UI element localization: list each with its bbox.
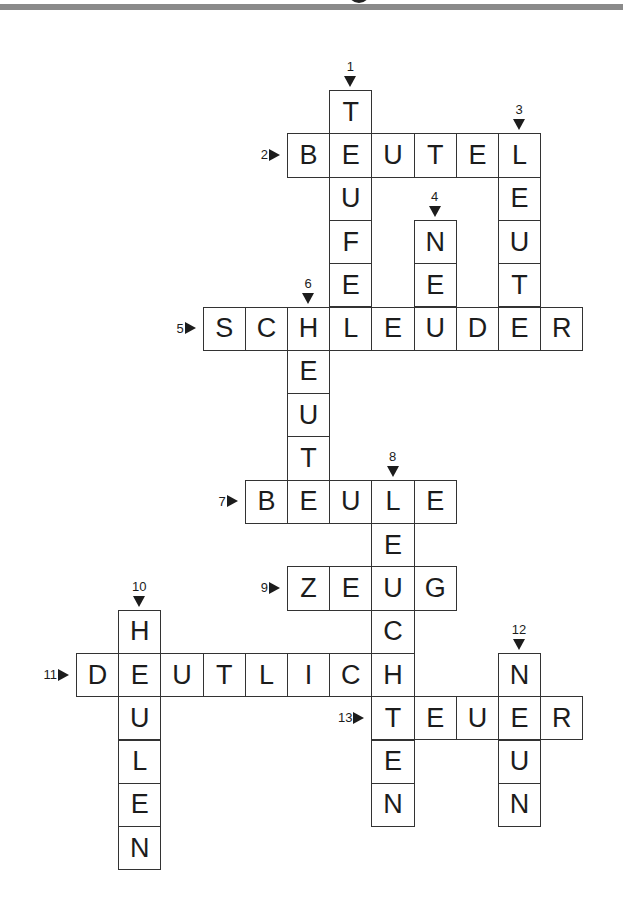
grid-cell[interactable]: U: [498, 740, 541, 784]
grid-cell[interactable]: U: [160, 653, 203, 697]
crossword-grid: TEUFEL1BUTEL2EUTE3NEU4SCHEDR5EUT6BEULE7E…: [0, 0, 623, 914]
grid-cell[interactable]: E: [329, 263, 372, 307]
arrow-down-icon: [133, 596, 145, 607]
clue-marker-down-6: 6: [293, 277, 323, 304]
grid-cell[interactable]: U: [329, 177, 372, 221]
grid-cell[interactable]: I: [287, 653, 330, 697]
grid-cell[interactable]: R: [540, 307, 583, 351]
grid-cell[interactable]: U: [456, 696, 499, 740]
grid-cell[interactable]: E: [498, 177, 541, 221]
clue-number: 1: [347, 60, 354, 73]
grid-cell[interactable]: N: [118, 826, 161, 870]
grid-cell[interactable]: L: [245, 653, 288, 697]
clue-number: 7: [219, 495, 226, 508]
arrow-right-icon: [227, 495, 238, 507]
grid-cell[interactable]: E: [414, 696, 457, 740]
clue-number: 13: [338, 711, 352, 724]
clue-number: 3: [515, 103, 522, 116]
grid-cell[interactable]: D: [76, 653, 119, 697]
grid-cell[interactable]: U: [414, 307, 457, 351]
grid-cell[interactable]: N: [414, 220, 457, 264]
clue-number: 6: [304, 277, 311, 290]
grid-cell[interactable]: E: [118, 783, 161, 827]
grid-cell[interactable]: E: [371, 740, 414, 784]
arrow-down-icon: [513, 119, 525, 130]
clue-marker-across-11: 11: [44, 665, 70, 685]
grid-cell[interactable]: U: [287, 393, 330, 437]
grid-cell[interactable]: D: [456, 307, 499, 351]
grid-cell[interactable]: H: [371, 653, 414, 697]
arrow-down-icon: [429, 206, 441, 217]
grid-cell[interactable]: E: [498, 696, 541, 740]
clue-number: 9: [261, 581, 268, 594]
arrow-right-icon: [185, 322, 196, 334]
grid-cell[interactable]: B: [287, 133, 330, 177]
grid-cell[interactable]: T: [414, 133, 457, 177]
grid-cell[interactable]: U: [371, 566, 414, 610]
clue-marker-across-7: 7: [219, 491, 238, 511]
grid-cell[interactable]: E: [287, 480, 330, 524]
grid-cell[interactable]: E: [498, 307, 541, 351]
clue-marker-across-9: 9: [261, 578, 280, 598]
clue-marker-down-4: 4: [420, 190, 450, 217]
grid-cell[interactable]: N: [371, 783, 414, 827]
grid-cell[interactable]: N: [498, 783, 541, 827]
clue-marker-across-2: 2: [261, 145, 280, 165]
arrow-right-icon: [353, 712, 364, 724]
arrow-right-icon: [58, 669, 69, 681]
arrow-down-icon: [302, 293, 314, 304]
grid-cell[interactable]: T: [203, 653, 246, 697]
grid-cell[interactable]: E: [371, 307, 414, 351]
grid-cell[interactable]: F: [329, 220, 372, 264]
clue-marker-across-5: 5: [176, 318, 195, 338]
grid-cell[interactable]: T: [498, 263, 541, 307]
clue-marker-down-10: 10: [124, 580, 154, 607]
grid-cell[interactable]: L: [371, 480, 414, 524]
grid-cell[interactable]: E: [118, 653, 161, 697]
grid-cell[interactable]: G: [414, 566, 457, 610]
clue-marker-down-8: 8: [378, 450, 408, 477]
clue-number: 10: [132, 580, 146, 593]
grid-cell[interactable]: L: [329, 307, 372, 351]
clue-number: 4: [431, 190, 438, 203]
clue-number: 11: [44, 668, 58, 681]
grid-cell[interactable]: N: [498, 653, 541, 697]
grid-cell[interactable]: E: [456, 133, 499, 177]
clue-number: 2: [261, 148, 268, 161]
grid-cell[interactable]: C: [371, 610, 414, 654]
grid-cell[interactable]: H: [118, 610, 161, 654]
grid-cell[interactable]: L: [118, 740, 161, 784]
grid-cell[interactable]: U: [371, 133, 414, 177]
grid-cell[interactable]: S: [203, 307, 246, 351]
clue-marker-down-3: 3: [504, 103, 534, 130]
clue-number: 8: [389, 450, 396, 463]
grid-cell[interactable]: T: [329, 90, 372, 134]
clue-number: 5: [176, 322, 183, 335]
grid-cell[interactable]: Z: [287, 566, 330, 610]
grid-cell[interactable]: E: [287, 350, 330, 394]
arrow-right-icon: [269, 149, 280, 161]
grid-cell[interactable]: L: [498, 133, 541, 177]
clue-number: 12: [512, 623, 526, 636]
grid-cell[interactable]: E: [329, 566, 372, 610]
grid-cell[interactable]: T: [371, 696, 414, 740]
grid-cell[interactable]: C: [245, 307, 288, 351]
grid-cell[interactable]: R: [540, 696, 583, 740]
clue-marker-across-13: 13: [338, 708, 364, 728]
clue-marker-down-1: 1: [335, 60, 365, 87]
grid-cell[interactable]: H: [287, 307, 330, 351]
grid-cell[interactable]: E: [414, 263, 457, 307]
grid-cell[interactable]: C: [329, 653, 372, 697]
arrow-right-icon: [269, 582, 280, 594]
arrow-down-icon: [513, 639, 525, 650]
clue-marker-down-12: 12: [504, 623, 534, 650]
grid-cell[interactable]: U: [118, 696, 161, 740]
grid-cell[interactable]: U: [498, 220, 541, 264]
grid-cell[interactable]: E: [371, 523, 414, 567]
grid-cell[interactable]: B: [245, 480, 288, 524]
grid-cell[interactable]: E: [329, 133, 372, 177]
grid-cell[interactable]: U: [329, 480, 372, 524]
grid-cell[interactable]: T: [287, 436, 330, 480]
arrow-down-icon: [387, 466, 399, 477]
grid-cell[interactable]: E: [414, 480, 457, 524]
